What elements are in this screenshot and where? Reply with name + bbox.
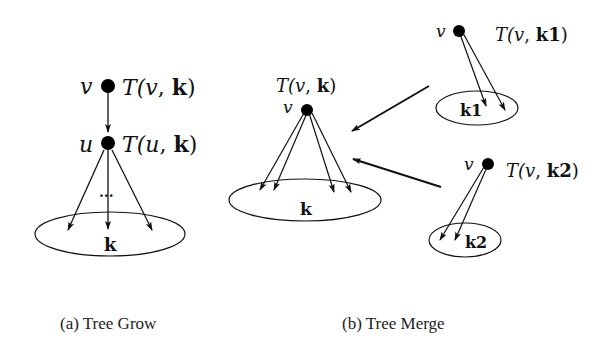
subtree1-node-v (453, 25, 465, 37)
merge-arrow-from-k1 (352, 86, 429, 131)
edge-u-k-right (112, 150, 152, 230)
edge-k1-1 (460, 34, 486, 106)
merged-tree-label: T(v, k) (276, 75, 336, 96)
tree-label-v-k: T(v, k) (122, 74, 196, 100)
tree-label-u-k: T(u, k) (122, 131, 197, 157)
subtree2-label: T(v, k2) (506, 160, 579, 181)
merged-set-label: k (300, 199, 313, 219)
edge-k2-2 (455, 167, 487, 240)
merged-node-v-name: v (283, 97, 293, 117)
ellipsis: ... (99, 184, 114, 200)
subtree2-node-v-name: v (464, 154, 474, 174)
node-v-name: v (80, 74, 93, 99)
figure-canvas: v T(v, k) u T(u, k) ... k v T(v, k) k v … (0, 0, 611, 358)
caption-a: (a) Tree Grow (60, 314, 157, 333)
set-k-label: k (104, 234, 117, 255)
subtree2-node-v (482, 158, 494, 170)
merge-arrow-from-k2 (353, 159, 441, 187)
diagram-svg: v T(v, k) u T(u, k) ... k v T(v, k) k v … (0, 0, 611, 358)
edge-merged-1 (260, 113, 304, 190)
subtree1-set-label: k1 (460, 101, 482, 120)
subtree1-node-v-name: v (436, 21, 446, 41)
merged-node-v (301, 104, 313, 116)
node-v (101, 79, 115, 93)
panel-tree-merge: v T(v, k) k v T(v, k1) k1 v T(v, k2) k2 (229, 21, 579, 257)
subtree1-label: T(v, k1) (495, 24, 568, 45)
panel-tree-grow: v T(v, k) u T(u, k) ... k (35, 74, 197, 256)
subtree2-set-label: k2 (465, 233, 487, 252)
edge-k2-1 (440, 167, 484, 240)
node-u (101, 136, 115, 150)
caption-b: (b) Tree Merge (342, 314, 445, 333)
node-u-name: u (79, 132, 93, 157)
